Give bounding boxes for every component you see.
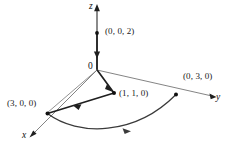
point-dot-110 xyxy=(112,91,116,95)
z-axis-label: z xyxy=(89,2,93,12)
coordinate-diagram-figure: z y x 0 (0, 0, 2) (0, 3, 0) (3, 0, 0) (1… xyxy=(0,0,234,147)
point-dot-002 xyxy=(95,31,99,35)
point-label-300: (3, 0, 0) xyxy=(7,99,36,108)
point-label-110: (1, 1, 0) xyxy=(119,89,148,98)
path-segment-110-300-line xyxy=(48,93,115,114)
point-dot-030 xyxy=(174,93,178,97)
point-dot-300 xyxy=(46,112,50,116)
x-axis xyxy=(30,70,98,138)
x-axis-label: x xyxy=(22,131,26,141)
path-arc-direction-arrow xyxy=(123,128,132,134)
y-axis-label: y xyxy=(216,93,220,103)
path-segment-z-direction-arrow xyxy=(94,52,100,59)
point-label-030: (0, 3, 0) xyxy=(183,72,212,81)
path-segment-z-descending xyxy=(94,33,100,69)
path-segment-origin-to-point-110 xyxy=(98,71,115,94)
z-axis-arrowhead xyxy=(94,4,100,11)
path-segment-point-110-to-point-300 xyxy=(48,93,115,114)
path-segment-origin-110-line xyxy=(98,71,115,94)
point-label-002: (0, 0, 2) xyxy=(105,27,134,36)
origin-label: 0 xyxy=(88,62,93,72)
